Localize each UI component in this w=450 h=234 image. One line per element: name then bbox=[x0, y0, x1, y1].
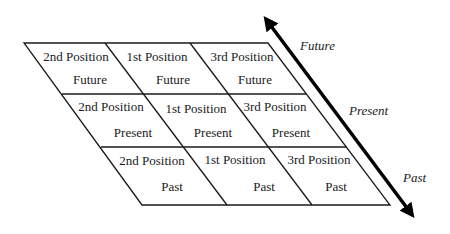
axis-label-past: Past bbox=[402, 170, 427, 185]
cell-time-label: Future bbox=[156, 72, 190, 87]
cell-time-label: Present bbox=[272, 125, 311, 140]
cell-position-label: 3rd Position bbox=[287, 152, 351, 167]
axis-label-present: Present bbox=[348, 103, 389, 118]
cell-time-label: Future bbox=[73, 72, 107, 87]
time-position-grid-diagram: 2nd Position Future 1st Position Future … bbox=[0, 0, 450, 234]
cell-time-label: Past bbox=[325, 179, 347, 194]
cell-position-label: 2nd Position bbox=[78, 99, 144, 114]
cell-position-label: 3rd Position bbox=[210, 49, 274, 64]
cell-position-label: 1st Position bbox=[204, 152, 266, 167]
axis-label-future: Future bbox=[299, 38, 335, 53]
cell-time-label: Future bbox=[238, 72, 272, 87]
cell-position-label: 3rd Position bbox=[243, 99, 307, 114]
cell-time-label: Present bbox=[194, 125, 233, 140]
cell-position-label: 2nd Position bbox=[43, 49, 109, 64]
cell-time-label: Past bbox=[161, 179, 183, 194]
row-present: 2nd Position Present 1st Position Presen… bbox=[78, 99, 310, 140]
cell-position-label: 1st Position bbox=[165, 101, 227, 116]
cell-time-label: Present bbox=[114, 125, 153, 140]
cell-position-label: 1st Position bbox=[126, 49, 188, 64]
row-past: 2nd Position Past 1st Position Past 3rd … bbox=[119, 152, 351, 194]
cell-time-label: Past bbox=[253, 179, 275, 194]
cell-position-label: 2nd Position bbox=[119, 153, 185, 168]
row-future: 2nd Position Future 1st Position Future … bbox=[43, 49, 274, 87]
